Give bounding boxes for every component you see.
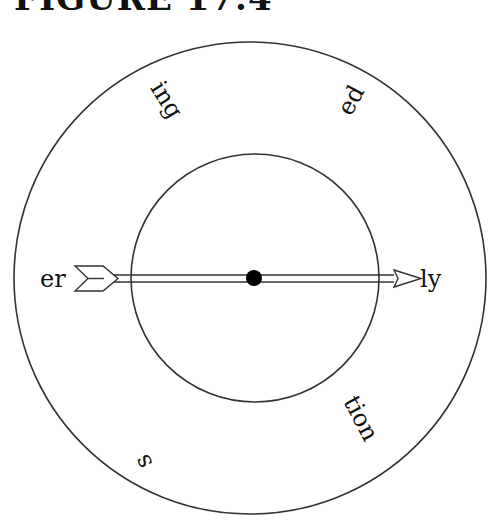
label-ed: ed [332, 81, 371, 120]
suffix-spinner-diagram: ing ed er ly tion s [0, 0, 500, 530]
label-ing: ing [145, 76, 189, 123]
label-tion: tion [338, 391, 385, 446]
label-ly: ly [420, 265, 442, 293]
arrow-head-icon [394, 270, 421, 287]
label-s: s [128, 450, 159, 474]
center-pivot-dot [246, 270, 262, 286]
label-er: er [40, 265, 66, 293]
